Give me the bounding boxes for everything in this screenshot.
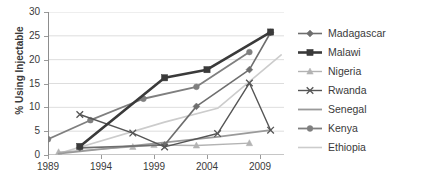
x-tick-label: 1999: [134, 161, 174, 172]
legend-item-ethiopia[interactable]: Ethiopia: [297, 138, 423, 157]
legend-item-malawi[interactable]: Malawi: [297, 43, 423, 62]
legend-label: Rwanda: [328, 84, 367, 97]
x-tick-mark: [48, 155, 49, 159]
legend-item-kenya[interactable]: Kenya: [297, 119, 423, 138]
legend-label: Nigeria: [328, 65, 361, 78]
x-tick-mark: [260, 155, 261, 159]
data-marker: [307, 49, 313, 55]
x-tick-mark: [207, 155, 208, 159]
data-marker: [307, 30, 314, 37]
x-tick-mark: [101, 155, 102, 159]
line-chart: % Using Injectable 051015202530 19891994…: [0, 0, 423, 182]
legend-swatch-square-icon: [297, 46, 323, 59]
x-tick-mark: [154, 155, 155, 159]
legend-item-senegal[interactable]: Senegal: [297, 100, 423, 119]
x-tick-label: 2009: [240, 161, 280, 172]
data-marker: [307, 126, 313, 132]
legend-item-madagascar[interactable]: Madagascar: [297, 24, 423, 43]
legend-label: Malawi: [328, 46, 361, 59]
legend-swatch-cross-icon: [297, 84, 323, 97]
legend-swatch-none-icon: [297, 141, 323, 154]
x-tick-label: 1994: [81, 161, 121, 172]
legend-item-nigeria[interactable]: Nigeria: [297, 62, 423, 81]
legend-swatch-triangle-icon: [297, 65, 323, 78]
legend-item-rwanda[interactable]: Rwanda: [297, 81, 423, 100]
legend: MadagascarMalawiNigeriaRwandaSenegalKeny…: [297, 24, 423, 157]
legend-label: Madagascar: [328, 27, 386, 40]
legend-label: Ethiopia: [328, 141, 366, 154]
legend-swatch-diamond-icon: [297, 27, 323, 40]
x-tick-label: 1989: [28, 161, 68, 172]
legend-swatch-none-icon: [297, 103, 323, 116]
legend-label: Kenya: [328, 122, 358, 135]
x-tick-label: 2004: [187, 161, 227, 172]
legend-swatch-circle-icon: [297, 122, 323, 135]
legend-label: Senegal: [328, 103, 367, 116]
